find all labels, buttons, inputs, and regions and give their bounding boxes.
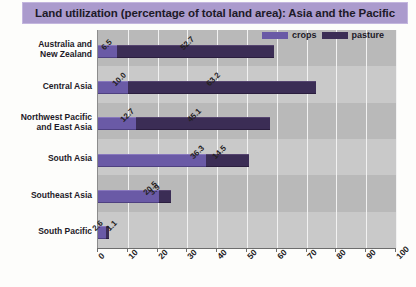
bar-segment-pasture [128,81,316,94]
legend-item-crops: crops [262,30,317,40]
category-label-line: Northwest Pacific [0,112,92,122]
legend-label-pasture: pasture [352,30,385,40]
category-label-line: New Zealand [0,49,92,59]
category-label-line: South Asia [0,153,92,163]
chart-title-band: Land utilization (percentage of total la… [22,2,408,24]
legend-swatch-pasture-icon [322,32,348,39]
legend-item-pasture: pasture [322,30,385,40]
category-label: South Pacific [0,226,92,236]
category-label: Australia andNew Zealand [0,39,92,59]
category-label-line: Central Asia [0,81,92,91]
bar-segment-pasture [136,117,270,130]
category-label-line: South Pacific [0,226,92,236]
page-title: Land utilization (percentage of total la… [35,7,395,19]
gridline [366,30,367,248]
gridline [277,30,278,248]
legend-swatch-crops-icon [262,32,288,39]
gridline [396,30,397,248]
gridline [247,30,248,248]
bar-segment-pasture [117,45,274,58]
bar-segment-crops [98,117,136,130]
x-axis-label: 0 [96,251,106,261]
category-label: South Asia [0,153,92,163]
category-label: Central Asia [0,81,92,91]
gridline [158,30,159,248]
category-label: Northwest Pacificand East Asia [0,112,92,132]
category-label-line: and East Asia [0,122,92,132]
gridline [307,30,308,248]
plot-area [97,30,396,248]
gridline [187,30,188,248]
x-axis-label: 50 [245,247,259,261]
x-axis-label: 40 [215,247,229,261]
bar-segment-pasture [159,190,171,203]
x-axis-label: 80 [334,247,348,261]
legend-label-crops: crops [292,30,317,40]
x-axis-label: 30 [185,247,199,261]
chart-frame: crops pasture 6.552.710.063.212.745.136.… [0,28,416,287]
gridline [217,30,218,248]
x-axis-label: 90 [364,247,378,261]
gridline [336,30,337,248]
chart-legend: crops pasture [262,29,384,41]
gridline [128,30,129,248]
category-label: Southeast Asia [0,190,92,200]
category-label-line: Southeast Asia [0,190,92,200]
category-label-line: Australia and [0,39,92,49]
